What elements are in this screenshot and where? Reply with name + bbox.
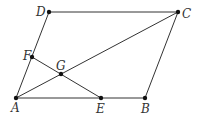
label-d: D [35,5,46,19]
segment-ac [16,12,178,98]
point-c [176,10,180,14]
point-b [143,96,147,100]
label-c: C [182,7,191,21]
point-d [47,10,51,14]
segments-group [16,12,178,98]
point-a [14,96,18,100]
label-b: B [140,102,150,116]
point-e [99,96,103,100]
segment-bc [145,12,178,98]
label-f: F [22,49,32,63]
label-e: E [95,102,105,116]
label-a: A [10,101,20,115]
label-g: G [56,59,66,73]
segment-ef [32,57,101,98]
parallelogram-diagram: ABCDEFG [0,0,201,127]
